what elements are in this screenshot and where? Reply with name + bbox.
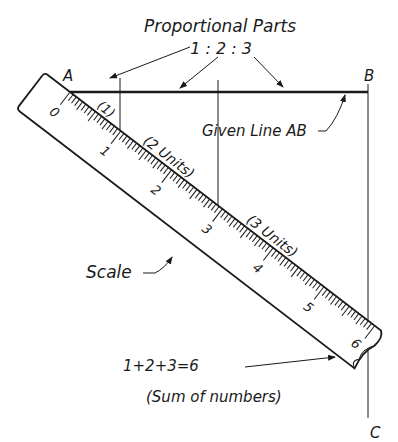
scale-label: Scale [86, 262, 132, 282]
sum-leader [245, 357, 335, 367]
title-label: Proportional Parts [144, 16, 296, 36]
given-line-label: Given Line AB [202, 122, 307, 140]
point-b-label: B [364, 67, 374, 85]
sum-note-label: (Sum of numbers) [146, 388, 282, 406]
scale-ruler: 0 1 2 3 4 5 6 (1) (2 Units) (3 Units) [17, 59, 395, 370]
ruler-body [17, 73, 385, 370]
scale-leader [143, 257, 172, 273]
point-c-label: C [370, 424, 381, 442]
ratio-label: 1 : 2 : 3 [190, 39, 252, 58]
proportional-division-diagram: Proportional Parts 1 : 2 : 3 A B C Given… [0, 0, 398, 442]
point-a-label: A [62, 67, 73, 85]
given-line-leader [318, 95, 345, 131]
leader-part3 [254, 57, 283, 87]
leader-part1 [110, 47, 190, 78]
sum-equation-label: 1+2+3=6 [123, 357, 199, 375]
leader-part2 [180, 57, 218, 88]
